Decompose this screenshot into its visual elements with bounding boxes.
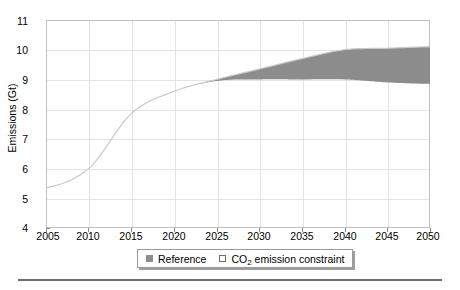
footer-divider	[18, 279, 442, 281]
y-tick-label-10: 10	[16, 45, 28, 55]
legend-entry-reference[interactable]: Reference	[146, 253, 206, 265]
chart-legend[interactable]: Reference CO2 emission constraint	[137, 249, 353, 268]
chart-data-layer	[46, 20, 430, 228]
x-tick-label-2040: 2040	[325, 231, 365, 242]
y-tick-label-11: 11	[17, 16, 28, 26]
legend-label-co2-subscript: 2	[247, 258, 251, 267]
legend-label-co2-suffix: emission constraint	[252, 253, 345, 265]
legend-swatch-filled-square-icon	[146, 255, 153, 262]
x-tick-label-2005: 2005	[28, 231, 68, 242]
x-tick-label-2010: 2010	[68, 231, 108, 242]
y-tick-label-9: 9	[22, 75, 28, 85]
emissions-chart-figure: Emissions (Gt) 11 10 9 8 7 6 5 4	[0, 0, 460, 290]
legend-label-co2-emission-constraint: CO2 emission constraint	[231, 253, 344, 265]
x-tick-label-2050: 2050	[408, 231, 448, 242]
y-tick-label-7: 7	[22, 134, 28, 144]
legend-entry-co2-emission-constraint[interactable]: CO2 emission constraint	[219, 253, 344, 265]
x-tick-label-2020: 2020	[154, 231, 194, 242]
x-tick-label-2015: 2015	[111, 231, 151, 242]
x-tick-label-2045: 2045	[367, 231, 407, 242]
legend-label-co2-prefix: CO	[231, 253, 247, 265]
x-tick-label-2030: 2030	[239, 231, 279, 242]
legend-label-reference: Reference	[158, 253, 206, 265]
legend-swatch-hollow-square-icon	[219, 255, 226, 262]
y-tick-label-5: 5	[22, 194, 28, 204]
y-tick-label-8: 8	[22, 105, 28, 115]
x-tick-label-2025: 2025	[197, 231, 237, 242]
y-tick-label-6: 6	[22, 164, 28, 174]
x-tick-label-2035: 2035	[282, 231, 322, 242]
y-axis-title-text: Emissions (Gt)	[6, 58, 18, 178]
emission-constraint-band	[46, 47, 430, 188]
